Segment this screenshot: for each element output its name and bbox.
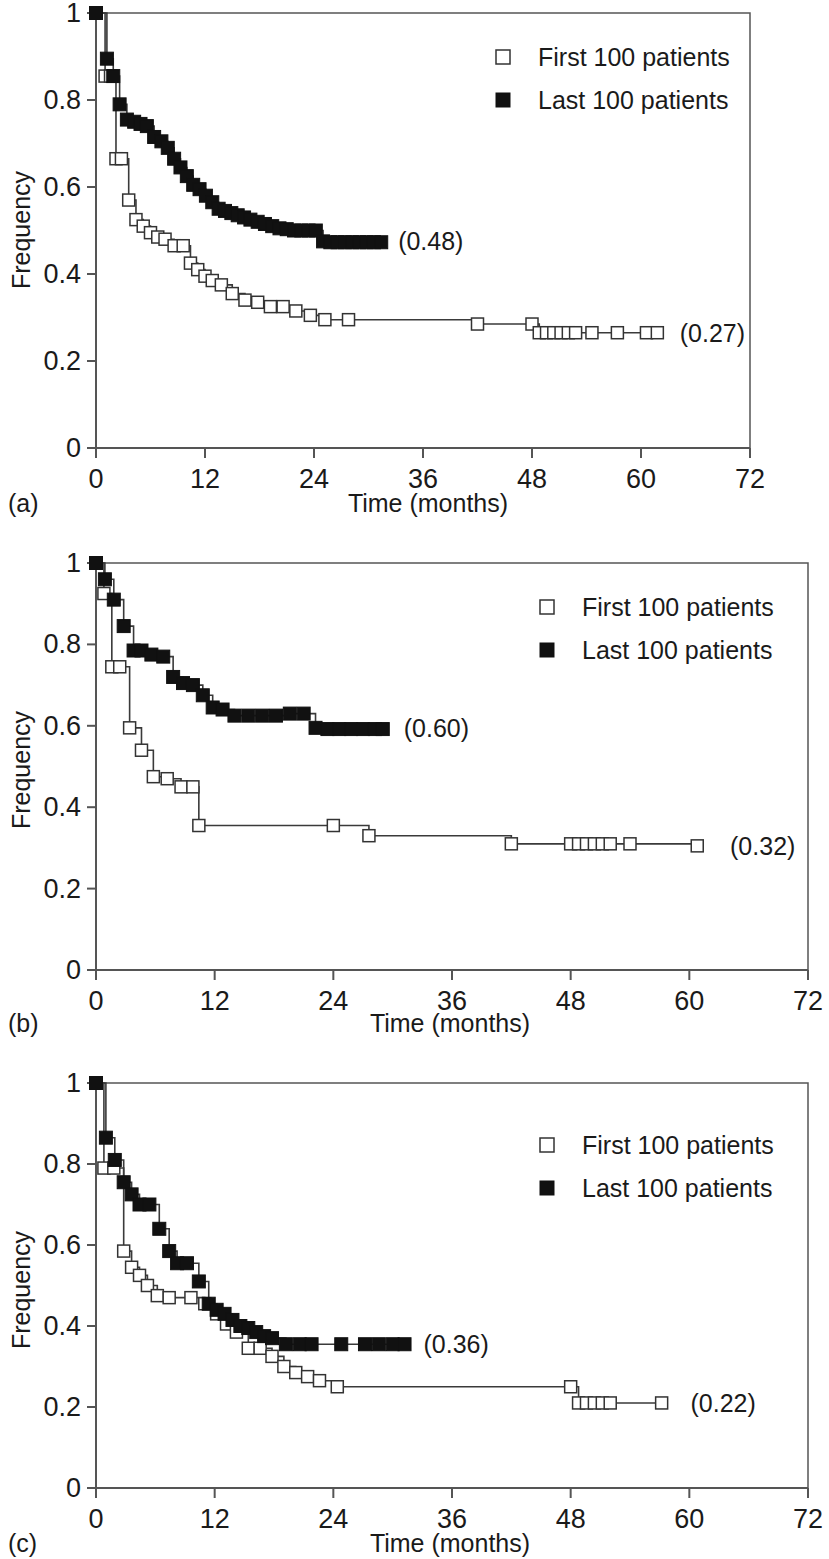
marker-open-square [193, 820, 205, 832]
marker-open-square [226, 288, 238, 300]
marker-filled-square [256, 709, 269, 722]
x-tick-label: 0 [88, 1504, 103, 1534]
marker-filled-square [192, 1275, 205, 1288]
marker-filled-square [196, 689, 209, 702]
y-tick-label: 0.8 [43, 1149, 81, 1179]
marker-filled-square [242, 709, 255, 722]
marker-open-square [123, 194, 135, 206]
legend-label-1: First 100 patients [538, 43, 730, 71]
panel-caption: (b) [8, 1009, 39, 1037]
endpoint-annotation: (0.36) [424, 1330, 489, 1358]
legend-label-2: Last 100 patients [582, 1174, 772, 1202]
endpoint-annotation: (0.27) [680, 319, 745, 347]
y-tick-label: 0.2 [43, 346, 81, 376]
marker-open-square [114, 661, 126, 673]
y-axis-title: Frequency [7, 170, 35, 289]
marker-open-square [313, 1375, 325, 1387]
marker-open-square [604, 838, 616, 850]
x-tick-label: 72 [793, 986, 823, 1016]
legend-label-2: Last 100 patients [538, 86, 728, 114]
marker-open-square [278, 1361, 290, 1373]
marker-filled-square [345, 723, 358, 736]
marker-filled-square [107, 593, 120, 606]
marker-open-square [290, 305, 302, 317]
marker-filled-square [279, 1338, 292, 1351]
marker-filled-square [98, 573, 111, 586]
marker-open-square [319, 314, 331, 326]
marker-filled-square [143, 1198, 156, 1211]
marker-filled-square [386, 1338, 399, 1351]
marker-filled-square [305, 1338, 318, 1351]
marker-open-square [302, 1371, 314, 1383]
x-tick-label: 72 [735, 464, 765, 494]
marker-filled-square [321, 723, 334, 736]
endpoint-annotation: (0.48) [398, 227, 463, 255]
y-axis-title: Frequency [7, 710, 35, 829]
endpoint-annotation: (0.60) [404, 714, 469, 742]
marker-filled-square [108, 1153, 121, 1166]
legend-marker-filled-square [540, 1181, 554, 1195]
x-tick-label: 60 [626, 464, 656, 494]
marker-filled-square [228, 709, 241, 722]
y-tick-label: 0.8 [43, 85, 81, 115]
marker-filled-square [90, 1077, 103, 1090]
x-tick-label: 0 [88, 986, 103, 1016]
y-tick-label: 1 [66, 548, 81, 578]
marker-filled-square [153, 1222, 166, 1235]
panel-b: 00.20.40.60.810122436486072FrequencyTime… [0, 530, 829, 1040]
y-tick-label: 0.2 [43, 874, 81, 904]
marker-filled-square [216, 703, 229, 716]
x-tick-label: 0 [88, 464, 103, 494]
panel-caption: (a) [8, 489, 39, 517]
y-tick-label: 0 [66, 1473, 81, 1503]
legend-label-1: First 100 patients [582, 593, 774, 621]
marker-filled-square [117, 1176, 130, 1189]
marker-filled-square [107, 70, 120, 83]
x-tick-label: 12 [200, 986, 230, 1016]
marker-open-square [565, 1381, 577, 1393]
y-tick-label: 0.6 [43, 1230, 81, 1260]
marker-open-square [327, 820, 339, 832]
legend-label-1: First 100 patients [582, 1131, 774, 1159]
marker-open-square [118, 1245, 130, 1257]
legend-marker-open-square [540, 1138, 554, 1152]
y-axis-title: Frequency [7, 1230, 35, 1349]
x-tick-label: 24 [299, 464, 329, 494]
x-axis-title: Time (months) [370, 1529, 530, 1557]
marker-open-square [656, 1397, 668, 1409]
marker-open-square [624, 838, 636, 850]
legend-marker-open-square [496, 50, 510, 64]
marker-open-square [252, 296, 264, 308]
marker-open-square [505, 838, 517, 850]
marker-filled-square [90, 7, 103, 20]
y-tick-label: 0.2 [43, 1392, 81, 1422]
y-tick-label: 0.6 [43, 172, 81, 202]
panel-caption: (c) [8, 1529, 37, 1557]
marker-open-square [264, 301, 276, 313]
endpoint-annotation: (0.22) [691, 1389, 756, 1417]
plot-area-c: 00.20.40.60.810122436486072FrequencyTime… [0, 1040, 829, 1559]
marker-open-square [277, 301, 289, 313]
marker-open-square [163, 1292, 175, 1304]
marker-filled-square [372, 1338, 385, 1351]
panel-c: 00.20.40.60.810122436486072FrequencyTime… [0, 1040, 829, 1559]
legend-marker-filled-square [496, 93, 510, 107]
marker-filled-square [117, 620, 130, 633]
marker-filled-square [375, 236, 388, 249]
y-tick-label: 0 [66, 433, 81, 463]
marker-filled-square [99, 1131, 112, 1144]
marker-open-square [651, 327, 663, 339]
marker-open-square [187, 781, 199, 793]
marker-filled-square [376, 723, 389, 736]
marker-open-square [239, 294, 251, 306]
plot-area-a: 00.20.40.60.810122436486072FrequencyTime… [0, 0, 829, 530]
marker-filled-square [145, 648, 158, 661]
marker-open-square [604, 1397, 616, 1409]
marker-open-square [611, 327, 623, 339]
marker-filled-square [283, 707, 296, 720]
marker-open-square [691, 840, 703, 852]
marker-open-square [161, 773, 173, 785]
endpoint-annotation: (0.32) [730, 832, 795, 860]
marker-open-square [266, 1350, 278, 1362]
marker-open-square [331, 1381, 343, 1393]
